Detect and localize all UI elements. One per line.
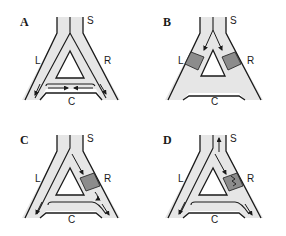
label-s: S [87,15,94,26]
panel-b: B S L R C [143,0,286,118]
panel-label: B [163,15,171,30]
label-l: L [35,173,41,184]
label-l: L [178,55,184,66]
panel-d: D S L R C [143,118,286,236]
label-r: R [247,55,254,66]
label-c: C [68,96,75,107]
label-r: R [104,173,111,184]
label-s: S [230,15,237,26]
panel-label: C [20,133,29,148]
label-s: S [230,133,237,144]
panel-a: A S L R C [0,0,143,118]
panel-c: C S L R C [0,118,143,236]
label-c: C [68,214,75,225]
label-c: C [211,214,218,225]
panel-label: A [20,15,29,30]
label-s: S [87,133,94,144]
panel-label: D [163,133,172,148]
label-l: L [178,173,184,184]
label-r: R [104,55,111,66]
label-r: R [247,173,254,184]
label-c: C [211,96,218,107]
label-l: L [35,55,41,66]
